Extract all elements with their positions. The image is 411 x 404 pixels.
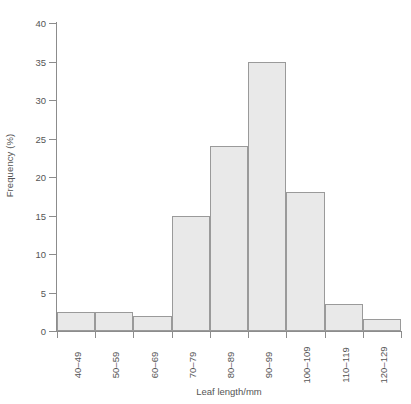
- y-axis-tick-mark: [49, 62, 56, 63]
- x-axis-tick-mark: [248, 331, 249, 338]
- histogram-chart: Frequency (%) 0510152025303540 40–4950–5…: [0, 0, 411, 404]
- bar: [172, 216, 210, 332]
- x-axis-tick-mark: [401, 331, 402, 338]
- bar: [325, 304, 363, 331]
- x-axis-tick-mark: [57, 331, 58, 338]
- x-axis-tick-mark: [363, 331, 364, 338]
- x-axis-tick-label: 40–49: [69, 342, 83, 388]
- x-axis-title: Leaf length/mm: [57, 386, 401, 397]
- y-axis-tick-label: 30: [2, 95, 46, 106]
- bar: [95, 312, 133, 331]
- x-axis-tick-mark: [286, 331, 287, 338]
- y-axis-tick-mark: [49, 177, 56, 178]
- x-axis-tick-label: 100–109: [298, 342, 312, 388]
- bar: [286, 192, 324, 331]
- x-axis-tick-mark: [133, 331, 134, 338]
- x-axis-tick-mark: [95, 331, 96, 338]
- x-axis-tick-label: 70–79: [184, 342, 198, 388]
- y-axis-tick-mark: [49, 139, 56, 140]
- plot-area: [57, 23, 401, 331]
- y-axis-title: Frequency (%): [0, 0, 18, 331]
- bar: [210, 146, 248, 331]
- x-axis-tick-label: 120–129: [375, 342, 389, 388]
- bar: [57, 312, 95, 331]
- bar: [133, 316, 171, 331]
- bar: [363, 319, 401, 331]
- x-axis-tick-label: 110–119: [337, 342, 351, 388]
- y-axis-tick-mark: [49, 331, 56, 332]
- x-axis-tick-mark: [172, 331, 173, 338]
- x-axis-tick-mark: [210, 331, 211, 338]
- x-axis-tick-mark: [325, 331, 326, 338]
- y-axis-tick-label: 40: [2, 18, 46, 29]
- x-axis-tick-label: 50–59: [107, 342, 121, 388]
- y-axis-tick-label: 5: [2, 287, 46, 298]
- x-axis-tick-label: 60–69: [146, 342, 160, 388]
- bar: [248, 62, 286, 332]
- y-axis-tick-mark: [49, 254, 56, 255]
- y-axis-tick-mark: [49, 293, 56, 294]
- y-axis-tick-label: 10: [2, 249, 46, 260]
- x-axis-tick-label: 80–89: [222, 342, 236, 388]
- y-axis-tick-label: 35: [2, 56, 46, 67]
- y-axis-tick-mark: [49, 100, 56, 101]
- y-axis-tick-label: 20: [2, 172, 46, 183]
- x-axis-line: [56, 331, 401, 332]
- y-axis-tick-label: 15: [2, 210, 46, 221]
- y-axis-tick-label: 25: [2, 133, 46, 144]
- y-axis-tick-mark: [49, 216, 56, 217]
- y-axis-tick-mark: [49, 23, 56, 24]
- y-axis-tick-label: 0: [2, 326, 46, 337]
- x-axis-tick-label: 90–99: [260, 342, 274, 388]
